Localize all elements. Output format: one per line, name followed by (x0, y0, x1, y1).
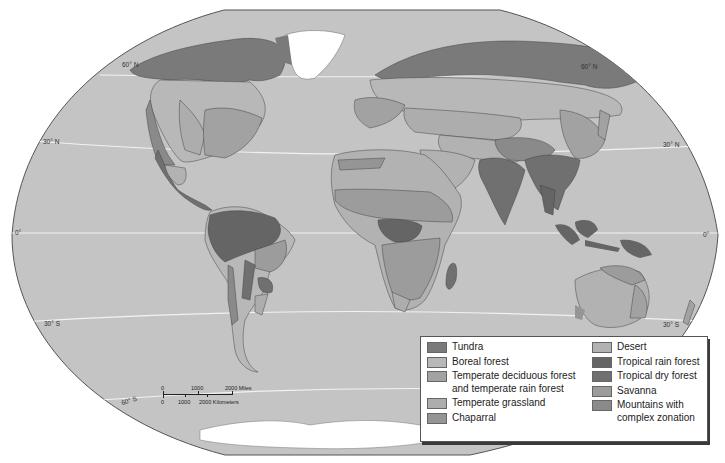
lat-label-30n-left: 30° N (43, 138, 59, 145)
legend-item-tundra: Tundra (427, 341, 575, 354)
swatch-savanna (592, 386, 612, 397)
lat-label-30s-right: 30° S (663, 321, 679, 328)
swatch-temperate-grassland (427, 398, 447, 409)
swatch-desert (592, 342, 612, 353)
swatch-chaparral (427, 413, 447, 424)
legend: Tundra Boreal forest Temperate deciduous… (420, 336, 708, 442)
scale-km-2000: 2000 Kilometers (199, 399, 239, 405)
legend-item-chaparral: Chaparral (427, 412, 575, 425)
lat-label-30s-left: 30° S (44, 320, 60, 327)
legend-item-temperate-deciduous: Temperate deciduous forest and temperate… (427, 370, 575, 395)
legend-item-tropical-rain-forest: Tropical rain forest (592, 356, 699, 369)
legend-column-right: Desert Tropical rain forest Tropical dry… (592, 341, 699, 426)
antarctica (200, 420, 440, 448)
scale-km-0: 0 (161, 399, 164, 405)
legend-column-left: Tundra Boreal forest Temperate deciduous… (427, 341, 575, 426)
swatch-temperate-deciduous (427, 371, 447, 382)
swatch-mountains (592, 400, 612, 411)
legend-item-desert: Desert (592, 341, 699, 354)
swatch-tropical-rain-forest (592, 357, 612, 368)
scale-bar: 0 1000 2000 Miles 0 1000 2000 Kilometers (160, 385, 280, 415)
legend-item-boreal-forest: Boreal forest (427, 356, 575, 369)
lat-label-60n-left: 60° N (122, 61, 138, 68)
legend-item-mountains: Mountains with complex zonation (592, 399, 699, 424)
swatch-tundra (427, 342, 447, 353)
lat-label-eq-left: 0° (15, 229, 21, 236)
legend-item-savanna: Savanna (592, 385, 699, 398)
swatch-tropical-dry-forest (592, 371, 612, 382)
swatch-boreal-forest (427, 357, 447, 368)
legend-item-temperate-grassland: Temperate grassland (427, 397, 575, 410)
lat-label-30n-right: 30° N (663, 141, 679, 148)
scale-km-1000: 1000 (178, 399, 190, 405)
lat-label-eq-right: 0° (703, 231, 709, 238)
legend-item-tropical-dry-forest: Tropical dry forest (592, 370, 699, 383)
scale-miles-2000: 2000 Miles (225, 385, 252, 391)
lat-label-60n-right: 60° N (581, 63, 597, 70)
